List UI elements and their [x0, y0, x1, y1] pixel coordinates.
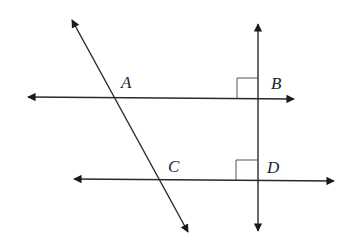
label-b: B — [271, 74, 282, 93]
geometry-diagram: A B C D — [0, 0, 339, 251]
right-angle-mark-d — [236, 160, 258, 180]
right-angle-mark-b — [237, 78, 258, 98]
transversal-ac — [72, 20, 188, 232]
label-d: D — [266, 158, 280, 177]
label-a: A — [120, 73, 132, 92]
label-c: C — [168, 157, 180, 176]
line-cd — [74, 179, 334, 181]
line-ab — [28, 97, 294, 99]
